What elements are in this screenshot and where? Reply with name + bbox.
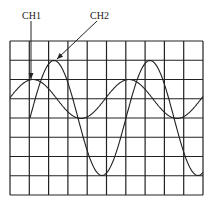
ch1-label: CH1: [22, 10, 41, 21]
oscilloscope-diagram: CH1 CH2: [0, 0, 208, 209]
ch2-label: CH2: [90, 10, 109, 21]
ch2-pointer-arrow: [57, 21, 97, 59]
